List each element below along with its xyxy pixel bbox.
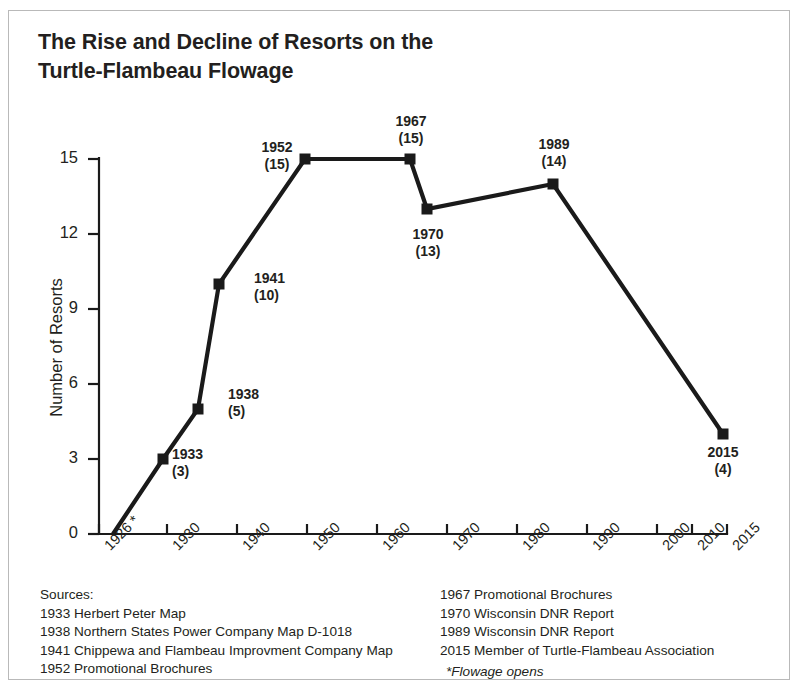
- annotation-1933: 1933 (3): [172, 446, 232, 480]
- sources-left-column: Sources: 1933 Herbert Peter Map 1938 Nor…: [40, 586, 393, 679]
- annotation-1989: 1989 (14): [524, 136, 584, 170]
- annotation-1970: 1970 (13): [398, 226, 458, 260]
- chart-page: The Rise and Decline of Resorts on the T…: [0, 0, 808, 697]
- sources-heading: Sources:: [40, 586, 393, 605]
- annotation-2015: 2015 (4): [693, 444, 753, 478]
- data-point-1938: [193, 404, 204, 415]
- source-item: 1967 Promotional Brochures: [440, 586, 714, 605]
- y-tick-label-0: 0: [38, 523, 78, 542]
- data-point-1970: [422, 204, 433, 215]
- sources-right-column: 1967 Promotional Brochures 1970 Wisconsi…: [440, 586, 714, 682]
- source-item: 1952 Promotional Brochures: [40, 660, 393, 679]
- data-point-1941: [214, 279, 225, 290]
- y-tick-label-15: 15: [38, 148, 78, 167]
- source-item: 2015 Member of Turtle-Flambeau Associati…: [440, 642, 714, 661]
- source-item: 1989 Wisconsin DNR Report: [440, 623, 714, 642]
- y-tick-label-12: 12: [38, 223, 78, 242]
- data-point-2015: [718, 429, 729, 440]
- source-item: 1933 Herbert Peter Map: [40, 605, 393, 624]
- source-item: 1970 Wisconsin DNR Report: [440, 605, 714, 624]
- data-point-1933: [158, 454, 169, 465]
- source-item: 1941 Chippewa and Flambeau Improvment Co…: [40, 642, 393, 661]
- source-item: 1938 Northern States Power Company Map D…: [40, 623, 393, 642]
- y-tick-label-3: 3: [38, 448, 78, 467]
- y-axis-title: Number of Resorts: [47, 248, 66, 448]
- annotation-1952: 1952 (15): [247, 139, 307, 173]
- annotation-1938: 1938 (5): [228, 386, 288, 420]
- annotation-1967: 1967 (15): [381, 113, 441, 147]
- footnote-flowage-opens: *Flowage opens: [440, 663, 714, 682]
- data-point-1989: [548, 179, 559, 190]
- data-point-1967: [405, 154, 416, 165]
- annotation-1941: 1941 (10): [254, 270, 314, 304]
